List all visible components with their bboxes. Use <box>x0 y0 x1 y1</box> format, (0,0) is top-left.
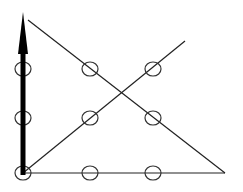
solution-line <box>28 20 225 173</box>
dot <box>82 62 98 76</box>
nine-dots-diagram <box>0 0 243 192</box>
up-arrow-icon <box>18 12 28 175</box>
solution-lines <box>23 20 225 173</box>
dot <box>145 62 161 76</box>
solution-line <box>23 41 185 173</box>
dot <box>145 111 161 125</box>
